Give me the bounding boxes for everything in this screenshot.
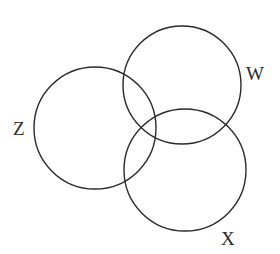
circle-x	[124, 109, 246, 231]
venn-diagram: Z W X	[0, 0, 280, 254]
circle-z	[34, 67, 156, 189]
circle-w	[123, 26, 241, 144]
label-z: Z	[13, 118, 25, 139]
label-x: X	[221, 228, 235, 249]
label-w: W	[246, 63, 264, 84]
